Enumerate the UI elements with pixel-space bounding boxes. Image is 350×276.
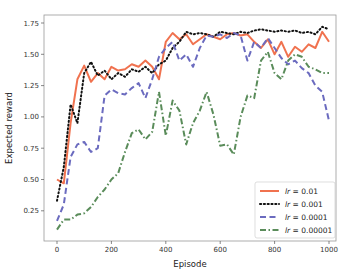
legend-label-0: lr = 0.01 — [285, 187, 318, 196]
x-tick-label: 0 — [55, 246, 59, 254]
legend-label-2: lr = 0.0001 — [285, 213, 328, 222]
x-tick-label: 200 — [105, 246, 118, 254]
x-tick-label: 600 — [214, 246, 227, 254]
y-tick-label: 1.75 — [23, 20, 39, 28]
legend: lr = 0.01lr = 0.001lr = 0.0001lr = 0.000… — [255, 182, 335, 238]
line-chart: 0.250.500.751.001.251.501.75 02004006008… — [0, 0, 350, 276]
x-axis-label: Episode — [173, 259, 206, 269]
y-tick-label: 1.00 — [23, 113, 39, 121]
y-tick-label: 1.50 — [23, 51, 39, 59]
x-tick-label: 800 — [268, 246, 281, 254]
y-tick-label: 0.50 — [23, 176, 39, 184]
y-axis-label: Expected reward — [4, 92, 14, 164]
legend-label-1: lr = 0.001 — [285, 200, 323, 209]
y-tick-label: 0.25 — [23, 207, 39, 215]
y-tick-label: 0.75 — [23, 145, 39, 153]
y-axis: 0.250.500.751.001.251.501.75 — [23, 20, 44, 216]
x-tick-label: 400 — [159, 246, 172, 254]
x-tick-label: 1000 — [320, 246, 338, 254]
x-axis: 02004006008001000 — [55, 241, 338, 254]
y-tick-label: 1.25 — [23, 82, 39, 90]
legend-label-3: lr = 0.00001 — [285, 226, 332, 235]
